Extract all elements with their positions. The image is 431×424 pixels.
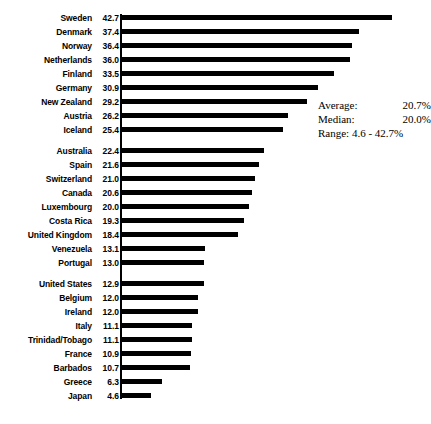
bar-value-label: 21.6	[94, 158, 119, 172]
bar	[122, 281, 204, 286]
bar-row: Australia22.4	[0, 144, 431, 158]
bar-category-label: Switzerland	[0, 172, 92, 186]
bar-value-label: 19.3	[94, 214, 119, 228]
bar	[122, 323, 192, 328]
bar	[122, 351, 191, 356]
bar-category-label: United States	[0, 277, 92, 291]
bar-category-label: Ireland	[0, 305, 92, 319]
bar	[122, 232, 238, 237]
bar-value-label: 30.9	[94, 81, 119, 95]
bar-value-label: 20.6	[94, 186, 119, 200]
bar	[122, 295, 198, 300]
bar-value-label: 11.1	[94, 319, 119, 333]
bar-value-label: 25.4	[94, 123, 119, 137]
bar-chart: Sweden42.7Denmark37.4Norway36.4Netherlan…	[0, 0, 431, 424]
bar-row: Netherlands36.0	[0, 53, 431, 67]
statistics-panel: Average: 20.7% Median: 20.0% Range: 4.6 …	[318, 98, 431, 140]
bar	[122, 148, 264, 153]
bar-value-label: 11.1	[94, 333, 119, 347]
bar-category-label: Portugal	[0, 256, 92, 270]
bar	[122, 162, 259, 167]
stat-median-label: Median:	[318, 112, 355, 126]
bar-row: Luxembourg20.0	[0, 200, 431, 214]
bar-row: Germany30.9	[0, 81, 431, 95]
bar-row: Ireland12.0	[0, 305, 431, 319]
bar-value-label: 4.6	[94, 389, 119, 403]
bar-value-label: 13.1	[94, 242, 119, 256]
bar	[122, 85, 318, 90]
bar-value-label: 20.0	[94, 200, 119, 214]
bar-row: Switzerland21.0	[0, 172, 431, 186]
bar-category-label: Australia	[0, 144, 92, 158]
bar-category-label: Finland	[0, 67, 92, 81]
bar	[122, 393, 151, 398]
bar	[122, 43, 352, 48]
bar-value-label: 36.0	[94, 53, 119, 67]
bar	[122, 218, 244, 223]
bar-category-label: Germany	[0, 81, 92, 95]
bar-value-label: 10.7	[94, 361, 119, 375]
bar-value-label: 36.4	[94, 39, 119, 53]
bar-category-label: Japan	[0, 389, 92, 403]
bar-value-label: 26.2	[94, 109, 119, 123]
bar-category-label: Denmark	[0, 25, 92, 39]
bar	[122, 71, 334, 76]
bar-row: Spain21.6	[0, 158, 431, 172]
bar-category-label: Austria	[0, 109, 92, 123]
stat-range-row: Range: 4.6 - 42.7%	[318, 126, 431, 140]
bar-category-label: Sweden	[0, 11, 92, 25]
bar	[122, 113, 288, 118]
bar-category-label: New Zealand	[0, 95, 92, 109]
bar-row: Costa Rica19.3	[0, 214, 431, 228]
stat-range-label: Range:	[318, 127, 349, 139]
stat-median-row: Median: 20.0%	[318, 112, 431, 126]
bar-category-label: Belgium	[0, 291, 92, 305]
bar	[122, 337, 192, 342]
bar-value-label: 10.9	[94, 347, 119, 361]
bar-row: Barbados10.7	[0, 361, 431, 375]
bar-value-label: 13.0	[94, 256, 119, 270]
bar-category-label: France	[0, 347, 92, 361]
bar-row: Finland33.5	[0, 67, 431, 81]
bar-row: United Kingdom18.4	[0, 228, 431, 242]
stat-median-value: 20.0%	[403, 112, 431, 126]
bar	[122, 260, 204, 265]
bar-value-label: 12.0	[94, 305, 119, 319]
bar	[122, 379, 162, 384]
bar-category-label: United Kingdom	[0, 228, 92, 242]
bar	[122, 190, 252, 195]
bar-row: Venezuela13.1	[0, 242, 431, 256]
bar-category-label: Canada	[0, 186, 92, 200]
bar	[122, 127, 283, 132]
bar-row: Sweden42.7	[0, 11, 431, 25]
bar	[122, 29, 359, 34]
bar-row: Belgium12.0	[0, 291, 431, 305]
bar-value-label: 42.7	[94, 11, 119, 25]
stat-average-value: 20.7%	[403, 98, 431, 112]
bar-value-label: 12.0	[94, 291, 119, 305]
bar	[122, 176, 255, 181]
bar-category-label: Spain	[0, 158, 92, 172]
bar	[122, 204, 249, 209]
bar-row: Trinidad/Tobago11.1	[0, 333, 431, 347]
bar-row: Portugal13.0	[0, 256, 431, 270]
bar-category-label: Costa Rica	[0, 214, 92, 228]
bar	[122, 246, 205, 251]
bar-category-label: Greece	[0, 375, 92, 389]
bar-row: Italy11.1	[0, 319, 431, 333]
bar-row: Greece6.3	[0, 375, 431, 389]
bar-value-label: 21.0	[94, 172, 119, 186]
bar	[122, 15, 392, 20]
bar-category-label: Norway	[0, 39, 92, 53]
bar-category-label: Luxembourg	[0, 200, 92, 214]
bar-value-label: 6.3	[94, 375, 119, 389]
stat-range-value: 4.6 - 42.7%	[352, 127, 403, 139]
bar-category-label: Barbados	[0, 361, 92, 375]
stat-average-label: Average:	[318, 98, 358, 112]
bar-category-label: Trinidad/Tobago	[0, 333, 92, 347]
bar-category-label: Netherlands	[0, 53, 92, 67]
bar-value-label: 18.4	[94, 228, 119, 242]
bar	[122, 365, 190, 370]
bar-category-label: Italy	[0, 319, 92, 333]
stat-average-row: Average: 20.7%	[318, 98, 431, 112]
